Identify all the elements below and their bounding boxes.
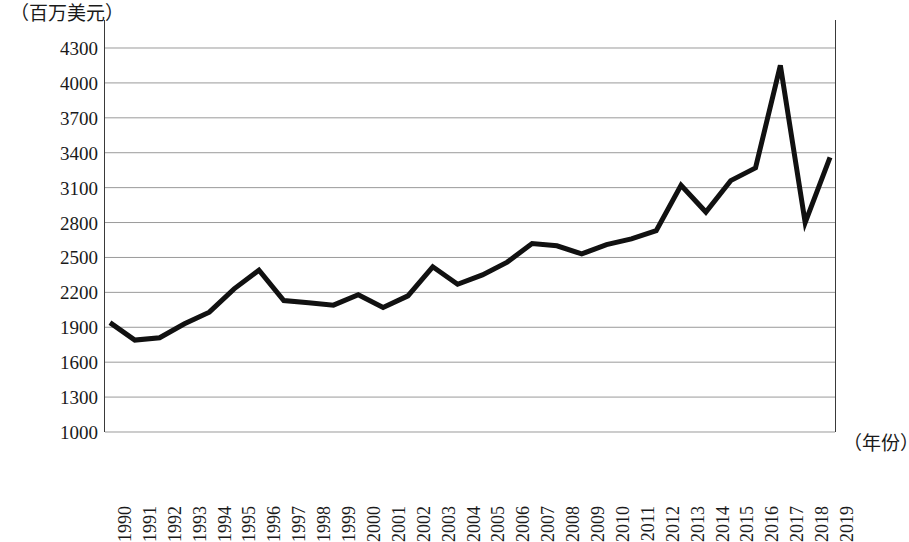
plot-area bbox=[104, 20, 836, 432]
x-tick-label: 2004 bbox=[465, 506, 483, 542]
x-tick-label: 1996 bbox=[265, 506, 283, 542]
y-tick-label: 2500 bbox=[6, 248, 98, 267]
x-tick-label: 1991 bbox=[141, 506, 159, 542]
y-axis-tick-labels: 4300400037003400310028002500220019001600… bbox=[0, 20, 98, 432]
x-tick-label: 2019 bbox=[838, 506, 856, 542]
x-tick-label: 1994 bbox=[216, 506, 234, 542]
x-tick-label: 1993 bbox=[191, 506, 209, 542]
y-tick-label: 4300 bbox=[6, 39, 98, 58]
y-tick-label: 3400 bbox=[6, 143, 98, 162]
y-tick-label: 4000 bbox=[6, 73, 98, 92]
x-tick-label: 2013 bbox=[689, 506, 707, 542]
y-tick-label: 1000 bbox=[6, 423, 98, 442]
x-tick-label: 2017 bbox=[788, 506, 806, 542]
x-tick-label: 1998 bbox=[315, 506, 333, 542]
y-tick-label: 3100 bbox=[6, 178, 98, 197]
x-tick-label: 2014 bbox=[714, 506, 732, 542]
y-tick-label: 1300 bbox=[6, 388, 98, 407]
y-tick-label: 1900 bbox=[6, 318, 98, 337]
y-tick-label: 1600 bbox=[6, 353, 98, 372]
x-tick-label: 2000 bbox=[365, 506, 383, 542]
x-axis-unit-label: （年份） bbox=[843, 434, 909, 453]
x-tick-label: 2011 bbox=[639, 506, 657, 541]
x-tick-label: 2016 bbox=[763, 506, 781, 542]
x-tick-label: 2008 bbox=[564, 506, 582, 542]
x-tick-label: 2009 bbox=[589, 506, 607, 542]
x-tick-label: 2007 bbox=[539, 506, 557, 542]
x-axis-tick-labels: 1990199119921993199419951996199719981999… bbox=[104, 434, 836, 510]
x-tick-label: 1997 bbox=[290, 506, 308, 542]
x-tick-label: 2001 bbox=[390, 506, 408, 542]
x-tick-label: 2005 bbox=[489, 506, 507, 542]
x-tick-label: 1999 bbox=[340, 506, 358, 542]
y-tick-label: 3700 bbox=[6, 108, 98, 127]
x-tick-label: 2015 bbox=[738, 506, 756, 542]
x-tick-label: 2003 bbox=[440, 506, 458, 542]
x-tick-label: 2002 bbox=[415, 506, 433, 542]
x-tick-label: 2018 bbox=[813, 506, 831, 542]
data-series-line bbox=[105, 20, 835, 432]
x-tick-label: 2012 bbox=[664, 506, 682, 542]
x-tick-label: 1995 bbox=[240, 506, 258, 542]
y-tick-label: 2200 bbox=[6, 283, 98, 302]
x-tick-label: 1992 bbox=[166, 506, 184, 542]
x-tick-label: 2010 bbox=[614, 506, 632, 542]
x-tick-label: 1990 bbox=[116, 506, 134, 542]
x-tick-label: 2006 bbox=[514, 506, 532, 542]
series-polyline bbox=[110, 65, 830, 340]
y-tick-label: 2800 bbox=[6, 213, 98, 232]
